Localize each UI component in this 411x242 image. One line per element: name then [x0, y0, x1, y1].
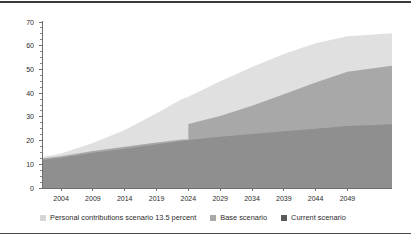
y-tick-label-70: 70: [12, 19, 34, 26]
chart-legend: Personal contributions scenario 13.5 per…: [40, 212, 346, 224]
y-tick-label-60: 60: [12, 42, 34, 49]
legend-item-2[interactable]: Base scenario: [210, 214, 267, 222]
y-tick-label-30: 30: [12, 113, 34, 120]
legend-swatch-personal: [40, 215, 46, 221]
y-tick-label-20: 20: [12, 137, 34, 144]
plot-area: [0, 0, 411, 242]
legend-item-1[interactable]: Personal contributions scenario 13.5 per…: [40, 214, 196, 222]
chart-figure: 010203040506070 200420092014201920242029…: [0, 0, 411, 242]
y-tick-label-50: 50: [12, 66, 34, 73]
x-tick-label-2049: 2049: [327, 195, 367, 202]
y-tick-label-0: 0: [12, 185, 34, 192]
legend-item-3[interactable]: Current scenario: [281, 214, 346, 222]
area-chart-svg: [0, 0, 411, 242]
y-tick-label-40: 40: [12, 90, 34, 97]
legend-swatch-base: [210, 215, 216, 221]
legend-swatch-current: [281, 215, 287, 221]
y-tick-label-10: 10: [12, 161, 34, 168]
legend-label-2: Base scenario: [220, 214, 267, 222]
legend-label-3: Current scenario: [291, 214, 346, 222]
area-series-group: [42, 33, 392, 188]
legend-label-1: Personal contributions scenario 13.5 per…: [50, 214, 196, 222]
